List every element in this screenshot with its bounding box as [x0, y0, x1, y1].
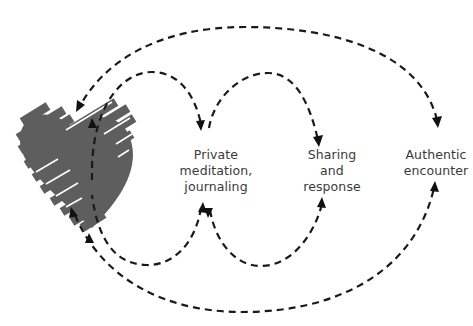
- arrow-icon: [432, 116, 442, 128]
- edge-private-to-sharing-bottom: [210, 204, 322, 266]
- node-sharing-response: Sharing and response: [297, 147, 367, 195]
- arrow-icon: [313, 135, 323, 147]
- arrow-icon: [196, 120, 205, 131]
- arrow-icon: [76, 100, 85, 112]
- node-label-line: Sharing: [297, 147, 367, 163]
- edge-heart-to-authentic-bottom: [75, 188, 434, 312]
- node-private-meditation: Private meditation, journaling: [176, 147, 256, 195]
- node-label-line: journaling: [176, 179, 256, 195]
- node-label-line: and: [297, 163, 367, 179]
- node-label-line: Private: [176, 147, 256, 163]
- edge-private-to-sharing-top: [209, 73, 318, 140]
- node-label-line: meditation,: [176, 163, 256, 179]
- arrow-icon: [430, 181, 439, 192]
- node-label-line: Authentic: [396, 147, 473, 163]
- arrow-icon: [317, 197, 326, 208]
- node-label-line: encounter: [396, 163, 473, 179]
- node-authentic-encounter: Authentic encounter: [396, 147, 473, 179]
- node-label-line: response: [297, 179, 367, 195]
